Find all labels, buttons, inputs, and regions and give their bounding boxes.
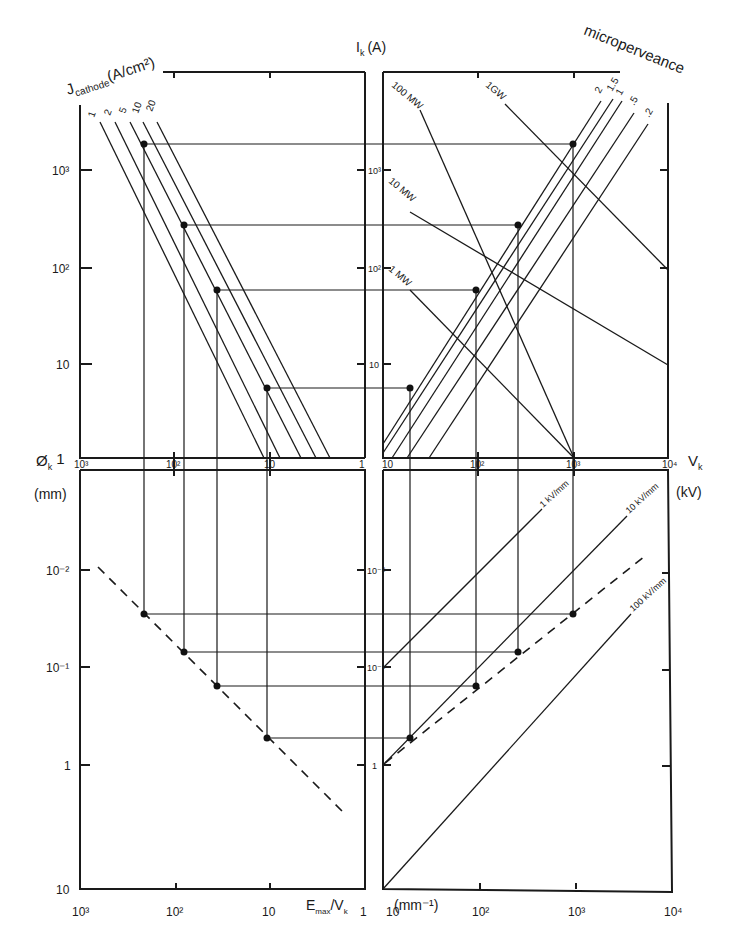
- svg-text:10²: 10²: [368, 264, 381, 274]
- svg-text:.5: .5: [626, 94, 640, 107]
- example-construction-lines: [144, 144, 573, 738]
- svg-text:10: 10: [382, 459, 394, 470]
- emax-unit: (mm⁻¹): [394, 897, 438, 913]
- svg-text:1: 1: [359, 459, 365, 470]
- phi-k-unit: (mm): [34, 486, 67, 502]
- svg-text:10⁻²: 10⁻²: [46, 564, 69, 578]
- svg-text:10 MW: 10 MW: [387, 175, 419, 204]
- svg-text:10⁻²: 10⁻²: [367, 566, 385, 576]
- svg-text:1 kV/mm: 1 kV/mm: [538, 478, 571, 509]
- dashed-line-left: [98, 567, 344, 813]
- svg-text:10³: 10³: [568, 905, 585, 919]
- svg-text:5: 5: [117, 105, 129, 114]
- curve-labels: 1 2 5 10 20 2 1.5 1 .5 .2 100 MW 1GW 10 …: [86, 75, 669, 613]
- axis-titles: Jcathode(A/cm²) Ik(A) microperveance Øk1…: [34, 21, 703, 916]
- svg-text:1: 1: [86, 109, 98, 118]
- svg-text:10³: 10³: [566, 459, 581, 470]
- svg-text:10²: 10²: [470, 459, 485, 470]
- svg-text:10: 10: [130, 100, 144, 115]
- nomogram-chart: Jcathode(A/cm²) Ik(A) microperveance Øk1…: [0, 0, 744, 952]
- svg-text:10: 10: [262, 905, 276, 919]
- svg-text:1GW: 1GW: [484, 79, 509, 102]
- bottom-right-frame: [383, 470, 672, 892]
- svg-text:10³: 10³: [368, 166, 381, 176]
- field-lines: [383, 509, 631, 889]
- svg-text:10: 10: [56, 358, 70, 372]
- power-lines: [410, 104, 668, 458]
- ik-title: Ik(A): [356, 39, 386, 58]
- svg-text:10²: 10²: [472, 905, 489, 919]
- vk-unit: (kV): [676, 484, 702, 500]
- svg-text:10: 10: [264, 459, 276, 470]
- svg-text:1: 1: [360, 905, 367, 919]
- perveance-lines: [383, 99, 648, 458]
- example-points: [141, 141, 577, 742]
- j-cathode-title: Jcathode(A/cm²): [64, 53, 158, 101]
- svg-text:1 MW: 1 MW: [387, 263, 415, 289]
- phi-k-title: Øk1: [36, 450, 65, 472]
- svg-text:1: 1: [613, 86, 626, 97]
- svg-text:10⁻¹: 10⁻¹: [46, 661, 69, 675]
- svg-text:10²: 10²: [52, 262, 69, 276]
- svg-text:20: 20: [144, 98, 158, 113]
- svg-text:.2: .2: [641, 106, 655, 119]
- svg-text:1: 1: [64, 759, 71, 773]
- svg-text:10 kV/mm: 10 kV/mm: [624, 481, 661, 516]
- top-left-axes: [80, 105, 365, 458]
- emax-title: Emax/Vk: [306, 897, 349, 916]
- dashed-line-right: [385, 556, 645, 763]
- svg-text:10: 10: [56, 883, 70, 897]
- vk-title: Vk: [688, 452, 703, 472]
- top-right-axes: [383, 72, 668, 458]
- svg-text:2: 2: [592, 84, 605, 95]
- svg-text:10³: 10³: [74, 459, 89, 470]
- svg-text:10: 10: [386, 905, 400, 919]
- svg-text:1: 1: [372, 761, 377, 771]
- svg-text:10⁴: 10⁴: [662, 459, 677, 470]
- microperveance-title: microperveance: [582, 21, 687, 77]
- svg-text:10⁴: 10⁴: [664, 905, 683, 919]
- svg-text:2: 2: [102, 107, 114, 116]
- bottom-left-frame: [80, 470, 365, 889]
- svg-text:100 kV/mm: 100 kV/mm: [628, 576, 669, 614]
- svg-text:10²: 10²: [166, 905, 183, 919]
- svg-text:10³: 10³: [52, 164, 69, 178]
- svg-text:10²: 10²: [166, 459, 181, 470]
- svg-text:10³: 10³: [72, 905, 89, 919]
- svg-text:100 MW: 100 MW: [390, 79, 426, 112]
- svg-text:10: 10: [369, 360, 379, 370]
- svg-text:10⁻¹: 10⁻¹: [367, 663, 385, 673]
